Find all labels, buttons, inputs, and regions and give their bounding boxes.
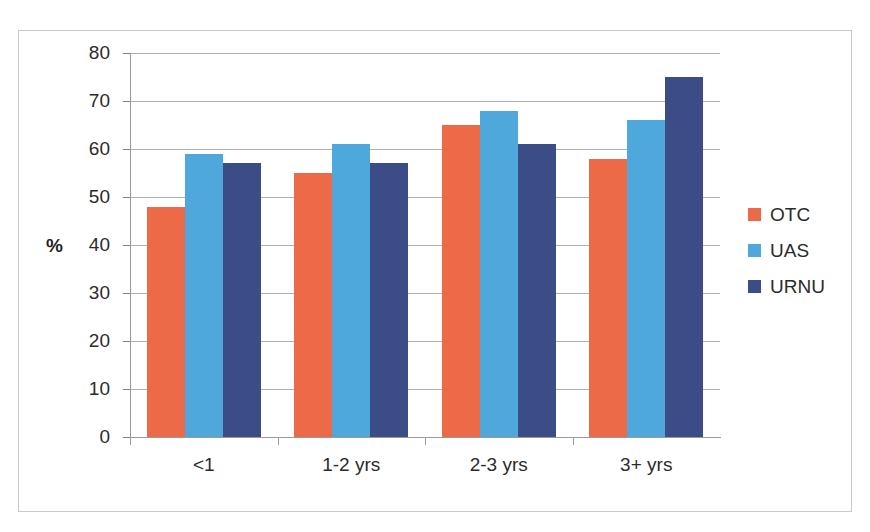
x-axis-separator <box>130 437 131 445</box>
bar-otc-0 <box>147 207 185 437</box>
x-axis-separator <box>573 437 574 445</box>
bar-otc-1 <box>294 173 332 437</box>
y-axis-line <box>130 53 131 438</box>
gridline <box>130 53 720 54</box>
grouped-bar-chart: % 80706050403020100 <11-2 yrs2-3 yrs3+ y… <box>0 0 870 532</box>
y-axis-tick <box>123 197 130 198</box>
bar-otc-3 <box>589 159 627 437</box>
gridline <box>130 101 720 102</box>
y-axis-tick-label: 40 <box>72 235 110 254</box>
legend-swatch-urnu <box>748 280 761 293</box>
y-axis-tick-label: 10 <box>72 379 110 398</box>
x-axis-category-label: 2-3 yrs <box>425 455 573 474</box>
legend-label: OTC <box>770 205 810 225</box>
y-axis-tick-label: 70 <box>72 91 110 110</box>
x-axis-category-label: <1 <box>130 455 278 474</box>
y-axis-tick-label: 20 <box>72 331 110 350</box>
bar-urnu-0 <box>223 163 261 437</box>
y-axis-tick-label: 30 <box>72 283 110 302</box>
bar-uas-3 <box>627 120 665 437</box>
y-axis-tick <box>123 437 130 438</box>
x-axis-category-label: 3+ yrs <box>573 455 721 474</box>
legend-label: URNU <box>770 277 825 297</box>
legend-label: UAS <box>770 241 809 261</box>
plot-area <box>130 53 720 437</box>
y-axis-tick <box>123 53 130 54</box>
legend-swatch-otc <box>748 208 761 221</box>
y-axis-title: % <box>46 236 63 255</box>
y-axis-tick-label: 80 <box>72 43 110 62</box>
y-axis-tick <box>123 389 130 390</box>
y-axis-tick <box>123 149 130 150</box>
bar-uas-1 <box>332 144 370 437</box>
bar-uas-0 <box>185 154 223 437</box>
bar-uas-2 <box>480 111 518 437</box>
y-axis-tick-label: 50 <box>72 187 110 206</box>
legend-swatch-uas <box>748 244 761 257</box>
y-axis-tick <box>123 101 130 102</box>
y-axis-tick <box>123 245 130 246</box>
bar-otc-2 <box>442 125 480 437</box>
x-axis-separator <box>425 437 426 445</box>
y-axis-tick <box>123 341 130 342</box>
y-axis-tick-label: 0 <box>72 427 110 446</box>
y-axis-tick <box>123 293 130 294</box>
bar-urnu-3 <box>665 77 703 437</box>
x-axis-separator <box>278 437 279 445</box>
x-axis-category-label: 1-2 yrs <box>278 455 426 474</box>
y-axis-tick-label: 60 <box>72 139 110 158</box>
bar-urnu-2 <box>518 144 556 437</box>
bar-urnu-1 <box>370 163 408 437</box>
